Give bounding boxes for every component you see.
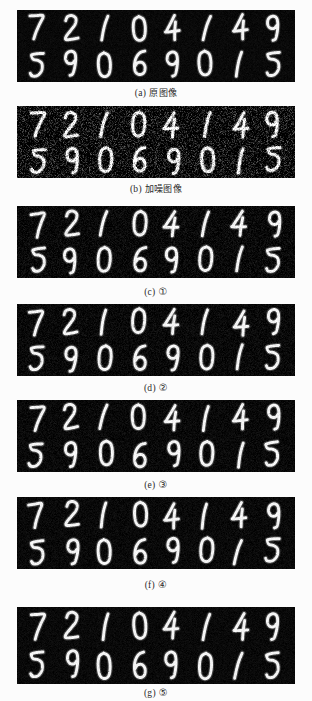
caption-label: ② (159, 382, 168, 393)
panel-caption: (a)原图像 (0, 86, 312, 99)
caption-label: ⑤ (159, 687, 168, 698)
caption-label: ④ (158, 579, 167, 590)
panel-caption: (g)⑤ (0, 687, 312, 698)
caption-label: ① (159, 286, 168, 297)
caption-label: 原图像 (149, 88, 177, 98)
digit-strip-image (17, 10, 295, 82)
digit-strip-image (17, 304, 295, 376)
caption-tag: (d) (144, 383, 156, 393)
digit-strip-image (17, 206, 295, 278)
caption-tag: (a) (135, 88, 146, 98)
digit-strip-image (17, 607, 295, 684)
panel-caption: (b)加噪图像 (0, 182, 312, 195)
digit-strip-canvas (17, 206, 295, 278)
panel-caption: (c)① (0, 286, 312, 297)
figure-page: (a)原图像(b)加噪图像(c)①(d)②(e)③(f)④(g)⑤ (0, 0, 312, 701)
panel-caption: (d)② (0, 382, 312, 393)
digit-strip-image (17, 106, 295, 178)
digit-strip-image (17, 497, 295, 569)
caption-tag: (g) (144, 688, 156, 698)
digit-strip-canvas (17, 106, 295, 178)
caption-label: 加噪图像 (145, 184, 182, 194)
digit-strip-canvas (17, 497, 295, 569)
digit-strip-canvas (17, 304, 295, 376)
panel-caption: (e)③ (0, 479, 312, 490)
caption-tag: (e) (144, 480, 155, 490)
digit-strip-canvas (17, 607, 295, 684)
caption-tag: (c) (144, 287, 155, 297)
digit-strip-canvas (17, 400, 295, 472)
caption-tag: (b) (130, 184, 142, 194)
caption-tag: (f) (145, 580, 155, 590)
digit-strip-image (17, 400, 295, 472)
digit-strip-canvas (17, 10, 295, 82)
panel-caption: (f)④ (0, 579, 312, 590)
caption-label: ③ (159, 479, 168, 490)
